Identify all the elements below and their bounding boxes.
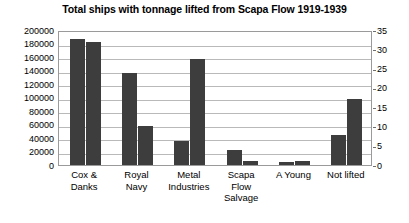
chart-title: Total ships with tonnage lifted from Sca…: [0, 3, 409, 15]
y-axis-left-tick-label: 120000: [24, 81, 54, 90]
y-axis-left-tick-label: 100000: [24, 94, 54, 103]
bar: [243, 161, 258, 165]
y-axis-right-tick-mark: [373, 31, 376, 32]
y-axis-right-tick-label: 5: [377, 142, 382, 151]
bar: [347, 99, 362, 165]
bar: [331, 135, 346, 165]
y-axis-right-tick-mark: [373, 166, 376, 167]
x-axis-category-label: Not lifted: [314, 169, 378, 181]
y-axis-right: 05101520253035: [377, 0, 409, 223]
y-axis-right-tick-label: 20: [377, 84, 387, 93]
y-axis-right-tick-mark: [373, 89, 376, 90]
y-axis-left-tick-label: 200000: [24, 27, 54, 36]
y-axis-left-tick-label: 40000: [29, 135, 54, 144]
y-axis-right-tick-label: 30: [377, 46, 387, 55]
y-axis-right-tick-label: 10: [377, 123, 387, 132]
y-axis-right-tick-label: 15: [377, 104, 387, 113]
y-axis-left-tick-label: 140000: [24, 67, 54, 76]
y-axis-left-tick-label: 180000: [24, 40, 54, 49]
y-axis-left: 0200004000060000800001000001200001400001…: [0, 0, 54, 223]
y-axis-right-tick-mark: [373, 147, 376, 148]
y-axis-right-tick-mark: [373, 50, 376, 51]
y-axis-right-tick-label: 35: [377, 27, 387, 36]
bar: [70, 39, 85, 165]
bar: [190, 59, 205, 165]
y-axis-left-tick-label: 160000: [24, 54, 54, 63]
y-axis-right-tick-mark: [373, 108, 376, 109]
y-axis-left-tick-label: 80000: [29, 108, 54, 117]
x-axis-category-labels: Cox & DanksRoyal NavyMetal IndustriesSca…: [58, 169, 372, 223]
bar: [86, 42, 101, 165]
y-axis-right-tick-mark: [373, 127, 376, 128]
y-axis-right-tick-label: 25: [377, 65, 387, 74]
bar: [295, 161, 310, 165]
bar-chart: Total ships with tonnage lifted from Sca…: [0, 0, 409, 223]
y-axis-left-tick-label: 20000: [29, 148, 54, 157]
bar: [138, 126, 153, 165]
y-axis-left-tick-label: 60000: [29, 121, 54, 130]
bar: [227, 150, 242, 165]
plot-area: [58, 31, 372, 166]
bar: [122, 73, 137, 165]
y-axis-right-tick-mark: [373, 70, 376, 71]
bar: [279, 162, 294, 165]
bars-layer: [59, 32, 371, 165]
bar: [174, 141, 189, 165]
